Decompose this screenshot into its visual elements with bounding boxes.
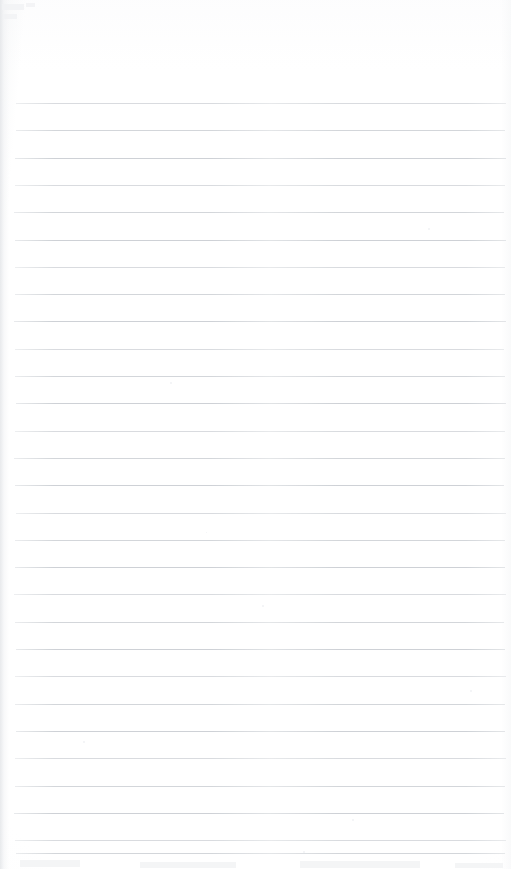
ruled-line (15, 294, 505, 295)
ruled-line (15, 704, 505, 705)
ruled-line (15, 567, 505, 568)
ruled-line (14, 813, 504, 814)
ruled-line (15, 622, 504, 623)
ruled-lines-area (0, 0, 511, 869)
ruled-line (16, 130, 505, 131)
ruled-line (16, 403, 506, 404)
ruled-line (15, 185, 505, 186)
ruled-line (15, 786, 505, 787)
ruled-line (15, 840, 506, 841)
ruled-line (15, 267, 505, 268)
scanned-page (0, 0, 511, 869)
ruled-line (16, 103, 506, 104)
ruled-line (15, 349, 504, 350)
ruled-line (14, 594, 506, 595)
ruled-line (16, 649, 505, 650)
ruled-line (16, 853, 505, 854)
ruled-line (14, 458, 505, 459)
ruled-line (16, 731, 505, 732)
ruled-line (14, 321, 506, 322)
ruled-line (15, 240, 506, 241)
ruled-line (15, 158, 506, 159)
ruled-line (15, 540, 505, 541)
ruled-line (15, 485, 504, 486)
ruled-line (15, 758, 506, 759)
ruled-line (16, 513, 506, 514)
ruled-line (15, 376, 505, 377)
ruled-line (15, 676, 506, 677)
ruled-line (15, 431, 505, 432)
ruled-line (14, 212, 504, 213)
